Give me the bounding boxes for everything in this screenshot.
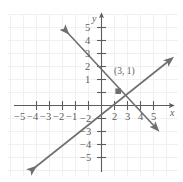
intersection-point-marker [115, 88, 121, 94]
intersection-point-label: (3, 1) [114, 67, 135, 77]
x-tick-label-neg2: −2 [53, 112, 64, 123]
x-tick-label-3: 3 [125, 112, 130, 123]
y-tick-label-neg2: −2 [80, 114, 91, 125]
y-tick-label-2: 2 [85, 62, 90, 73]
x-tick-label-neg1: −1 [66, 112, 77, 123]
x-axis-label: x [170, 108, 174, 118]
graph-figure: −5 −4 −3 −2 −1 2 3 4 5 5 4 3 2 1 −2 −3 −… [0, 0, 183, 182]
x-tick-label-neg5: −5 [14, 112, 25, 123]
coordinate-plane [0, 0, 183, 182]
x-tick-label-neg4: −4 [27, 112, 38, 123]
y-tick-label-3: 3 [85, 49, 90, 60]
y-tick-label-5: 5 [85, 23, 90, 34]
y-tick-label-neg4: −4 [80, 140, 91, 151]
y-axis-label: y [92, 14, 96, 24]
x-tick-label-4: 4 [138, 112, 143, 123]
x-tick-label-neg3: −3 [40, 112, 51, 123]
grid-lines [8, 14, 178, 176]
x-tick-label-2: 2 [112, 112, 117, 123]
y-tick-label-neg5: −5 [80, 153, 91, 164]
y-tick-label-1: 1 [85, 75, 90, 86]
axes [14, 15, 172, 172]
y-tick-label-neg3: −3 [80, 127, 91, 138]
y-tick-label-4: 4 [85, 36, 90, 47]
x-tick-label-5: 5 [151, 112, 156, 123]
